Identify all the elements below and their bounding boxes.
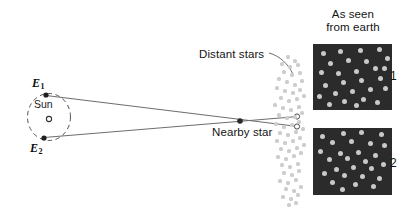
distant-star-dot	[293, 83, 296, 86]
panel-star-dot	[379, 132, 384, 137]
distant-star-dot	[283, 141, 286, 144]
panel-star-dot	[350, 89, 355, 94]
distant-star-dot	[278, 179, 281, 182]
distant-star-dot	[274, 122, 277, 125]
distant-star-dot	[284, 157, 287, 160]
distant-star-dot	[282, 125, 285, 128]
distant-star-dot	[281, 195, 284, 198]
panel-star-dot	[373, 66, 378, 71]
sky-view-panel-1	[313, 44, 392, 110]
panel-star-dot	[381, 162, 386, 167]
distant-star-dot	[294, 130, 297, 133]
distant-star-dot	[292, 189, 295, 192]
distant-star-dot	[300, 79, 303, 82]
sight-line-e1	[46, 96, 298, 127]
panel-star-dot	[340, 187, 345, 192]
panel-star-dot	[368, 141, 373, 146]
panel-star-dot	[377, 176, 382, 181]
as-seen-from-earth-label: As seenfrom earth	[313, 8, 393, 34]
panel-star-dot	[338, 49, 343, 54]
panel-star-dot	[349, 139, 354, 144]
panel-star-dot	[336, 71, 341, 76]
distant-star-dot	[279, 147, 282, 150]
panel-star-dot	[321, 51, 326, 56]
panel-star-dot	[371, 184, 376, 189]
distant-star-dot	[280, 62, 283, 65]
panel-star-dot	[342, 173, 347, 178]
panel-star-dot	[330, 180, 335, 185]
distant-star-dot	[292, 154, 295, 157]
earth-position-2-letter: E	[30, 141, 38, 155]
panel-star-dot	[319, 70, 324, 75]
distant-star-dot	[302, 94, 305, 97]
distant-star-dot	[297, 120, 300, 123]
panel-star-dot	[338, 151, 343, 156]
panel-star-dot	[342, 99, 347, 104]
distant-star-dot	[295, 146, 298, 149]
distant-star-dot	[273, 103, 276, 106]
distant-stars-label: Distant stars	[199, 48, 264, 61]
distant-star-dot	[298, 136, 301, 139]
panel-star-dot	[363, 159, 368, 164]
panel-star-dot	[327, 102, 332, 107]
panel-star-dot	[369, 166, 374, 171]
panel-star-dot	[320, 134, 325, 139]
distant-star-dot	[288, 65, 291, 68]
panel-star-dot	[385, 56, 390, 61]
distant-star-dot	[299, 151, 302, 154]
distant-star-dot	[278, 131, 281, 134]
distant-star-dot	[290, 173, 293, 176]
distant-star-dot	[297, 105, 300, 108]
distant-star-dot	[280, 163, 283, 166]
panel-star-dot	[375, 100, 380, 105]
distant-star-dot	[290, 123, 293, 126]
panel-star-dot	[373, 153, 378, 158]
panel-2-number-label: 2	[390, 157, 397, 170]
distant-star-dot	[291, 91, 294, 94]
distant-star-dot	[284, 187, 287, 190]
distant-star-dot	[288, 165, 291, 168]
panel-star-dot	[359, 78, 364, 83]
earth-position-2-dot	[41, 135, 46, 140]
distant-star-dot	[296, 63, 299, 66]
panel-star-dot	[351, 165, 356, 170]
distant-star-dot	[286, 181, 289, 184]
panel-star-dot	[318, 149, 323, 154]
distant-star-dot	[285, 116, 288, 119]
sun-label: Sun	[34, 99, 53, 111]
panel-1-number-label: 1	[390, 70, 397, 83]
panel-star-dot	[323, 83, 328, 88]
distant-star-dot	[275, 139, 278, 142]
as-seen-line-1: As seen	[332, 8, 374, 20]
distant-star-field	[268, 55, 310, 215]
panel-star-dot	[354, 69, 359, 74]
distant-star-dot	[287, 149, 290, 152]
distant-star-dot	[279, 96, 282, 99]
earth-position-1-letter: E	[32, 76, 40, 90]
panel-star-dot	[345, 156, 350, 161]
earth-position-2-label: E2	[30, 141, 42, 156]
nearby-star-dot	[237, 118, 243, 124]
distant-star-dot	[282, 171, 285, 174]
panel-star-dot	[356, 150, 361, 155]
distant-star-dot	[296, 193, 299, 196]
distant-star-dot	[295, 97, 298, 100]
distant-star-dot	[302, 143, 305, 146]
panel-star-dot	[360, 174, 365, 179]
panel-star-dot	[327, 157, 332, 162]
distant-star-dot	[293, 115, 296, 118]
panel-star-dot	[317, 94, 322, 99]
distant-star-dot	[281, 106, 284, 109]
distant-star-dot	[300, 111, 303, 114]
distant-star-dot	[294, 178, 297, 181]
distant-star-dot	[275, 86, 278, 89]
nearby-star-label: Nearby star	[212, 126, 273, 139]
panel-star-dot	[328, 61, 333, 66]
distant-star-dot	[282, 70, 285, 73]
panel-star-dot	[346, 58, 351, 63]
distant-star-dot	[298, 71, 301, 74]
distant-star-dot	[291, 139, 294, 142]
distant-star-dot	[286, 55, 289, 58]
panel-star-dot	[364, 59, 369, 64]
panel-star-dot	[341, 80, 346, 85]
